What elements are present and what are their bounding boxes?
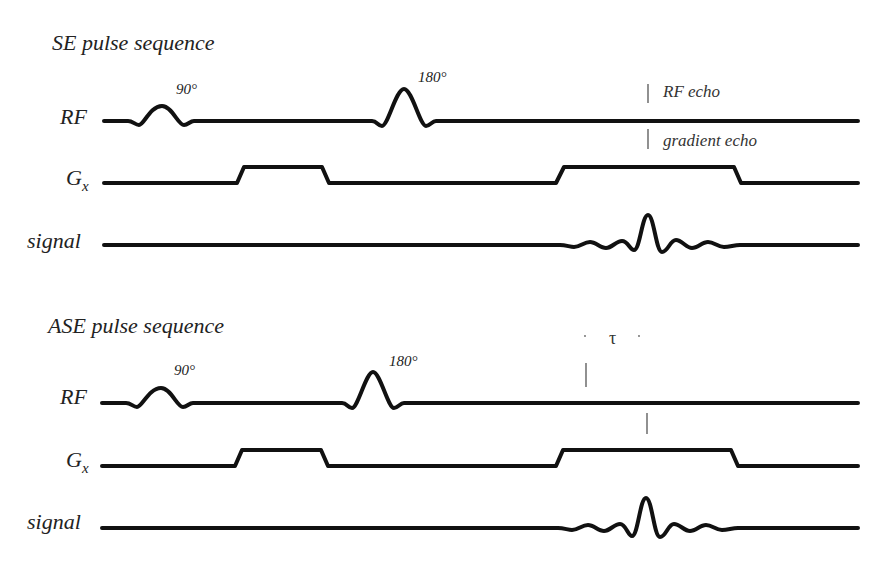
ase-90-label: 90° <box>174 362 195 378</box>
pulse-sequence-diagram: SE pulse sequence RF 90° 180° RF echo gr… <box>0 0 893 563</box>
se-gradient-echo-label: gradient echo <box>663 131 757 150</box>
ase-signal-waveform <box>102 498 858 537</box>
ase-180-label: 180° <box>389 353 418 369</box>
se-rf-echo-label: RF echo <box>662 82 720 101</box>
se-rf-waveform <box>104 89 858 126</box>
se-rf-label: RF <box>59 104 87 129</box>
se-title: SE pulse sequence <box>52 30 215 55</box>
se-signal-label: signal <box>27 228 81 253</box>
se-signal-waveform <box>104 215 858 252</box>
tau-left-dot <box>584 335 586 337</box>
ase-title: ASE pulse sequence <box>46 313 224 338</box>
ase-rf-waveform <box>102 372 858 408</box>
se-gx-waveform <box>104 167 858 183</box>
ase-rf-label: RF <box>59 384 87 409</box>
ase-gx-waveform <box>102 450 858 466</box>
ase-gx-label: Gx <box>66 447 89 476</box>
se-180-label: 180° <box>418 69 447 85</box>
se-90-label: 90° <box>176 81 197 97</box>
tau-label: τ <box>609 328 616 348</box>
ase-signal-label: signal <box>27 509 81 534</box>
se-panel: SE pulse sequence RF 90° 180° RF echo gr… <box>27 30 858 253</box>
se-gx-label: Gx <box>66 165 89 194</box>
ase-panel: ASE pulse sequence RF 90° 180° τ Gx sign… <box>27 313 858 537</box>
tau-right-dot <box>638 335 640 337</box>
